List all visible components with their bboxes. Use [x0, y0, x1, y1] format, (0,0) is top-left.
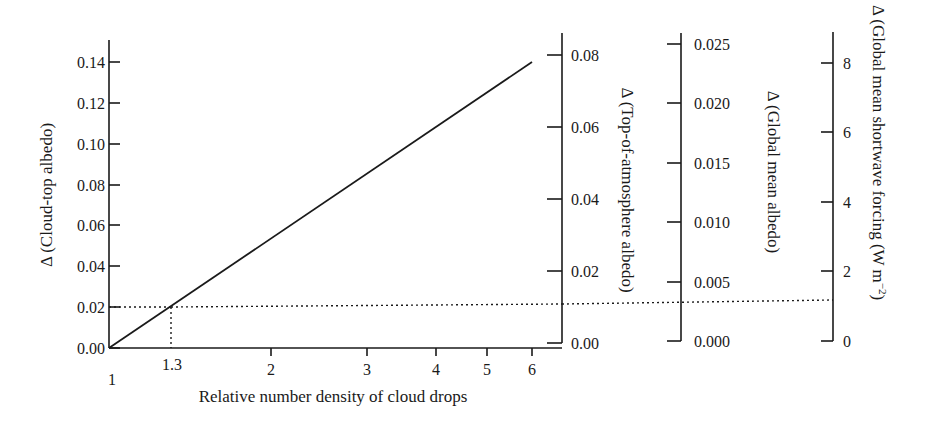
- right1-tick-4: 0.08: [571, 47, 599, 64]
- x-tick-3: 3: [363, 361, 371, 378]
- x-tick-1: 1: [108, 371, 116, 388]
- left-tick-0: 0.00: [77, 340, 105, 357]
- left-tick-5: 0.10: [77, 136, 105, 153]
- right2-axis-title: Δ (Global mean albedo): [764, 91, 783, 253]
- right3-title-main: Δ (Global mean shortwave forcing (W m: [869, 5, 888, 283]
- right2-tick-4: 0.020: [694, 95, 730, 112]
- right3-tick-3: 6: [843, 124, 851, 141]
- right2-tick-5: 0.025: [694, 36, 730, 53]
- x-tick-1-3: 1.3: [162, 356, 182, 373]
- right1-tick-0: 0.00: [571, 335, 599, 352]
- right3-tick-2: 4: [843, 194, 851, 211]
- x-tick-5: 5: [483, 361, 491, 378]
- right1-axis-title: Δ (Top-of-atmosphere albedo): [618, 87, 637, 292]
- right3-title-end: ): [869, 295, 888, 301]
- data-line-cloud-top-albedo: [109, 62, 532, 348]
- right1-tick-1: 0.02: [571, 263, 599, 280]
- right-axis-global-mean-albedo: 0.000 0.005 0.010 0.015 0.020 0.025 Δ (G…: [667, 33, 783, 350]
- left-tick-2: 0.04: [77, 258, 105, 275]
- right1-tick-2: 0.04: [571, 191, 599, 208]
- right2-tick-1: 0.005: [694, 274, 730, 291]
- left-axis-title: Δ (Cloud-top albedo): [37, 123, 56, 267]
- x-axis: 1 1.3 2 3 4 5 6 Relative number density …: [108, 348, 562, 406]
- right2-tick-2: 0.010: [694, 214, 730, 231]
- left-tick-7: 0.14: [77, 54, 105, 71]
- left-tick-4: 0.08: [77, 177, 105, 194]
- right-axis-toa-albedo: 0.00 0.02 0.04 0.06 0.08 Δ (Top-of-atmos…: [547, 33, 637, 352]
- right-axis-shortwave-forcing: 0 2 4 6 8 Δ (Global mean shortwave forci…: [821, 5, 889, 350]
- right2-tick-0: 0.000: [694, 333, 730, 350]
- right3-tick-0: 0: [843, 333, 851, 350]
- x-tick-2: 2: [267, 361, 275, 378]
- x-axis-title: Relative number density of cloud drops: [199, 387, 468, 406]
- left-tick-6: 0.12: [77, 95, 105, 112]
- right3-axis-title: Δ (Global mean shortwave forcing (W m−2): [869, 5, 889, 300]
- right1-tick-3: 0.06: [571, 119, 599, 136]
- right3-tick-1: 2: [843, 263, 851, 280]
- cloud-albedo-chart: 0.00 0.02 0.04 0.06 0.08 0.10 0.12 0.14 …: [0, 0, 927, 422]
- right2-tick-3: 0.015: [694, 155, 730, 172]
- x-tick-4: 4: [432, 361, 440, 378]
- left-tick-1: 0.02: [77, 299, 105, 316]
- right3-tick-4: 8: [843, 55, 851, 72]
- left-tick-3: 0.06: [77, 217, 105, 234]
- left-axis: 0.00 0.02 0.04 0.06 0.08 0.10 0.12 0.14 …: [37, 40, 120, 357]
- right3-title-sup: −2: [877, 283, 889, 295]
- x-tick-6: 6: [528, 361, 536, 378]
